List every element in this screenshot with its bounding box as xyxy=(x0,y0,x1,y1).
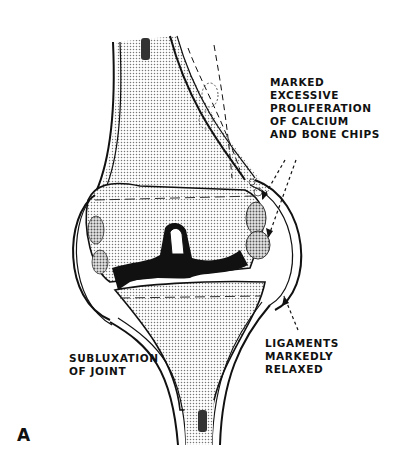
label-line: MARKEDLY xyxy=(265,350,339,363)
knee-joint-illustration xyxy=(0,0,393,473)
label-line: OF CALCIUM xyxy=(270,115,380,128)
panel-letter: A xyxy=(17,425,30,445)
label-line: PROLIFERATION xyxy=(270,102,380,115)
label-line: RELAXED xyxy=(265,363,339,376)
label-line: EXCESSIVE xyxy=(270,89,380,102)
label-line: AND BONE CHIPS xyxy=(270,128,380,141)
label-line: SUBLUXATION xyxy=(69,352,159,365)
label-line: OF JOINT xyxy=(69,365,159,378)
label-line: LIGAMENTS xyxy=(265,337,339,350)
label-calcium-proliferation: MARKED EXCESSIVE PROLIFERATION OF CALCIU… xyxy=(270,76,380,141)
label-line: MARKED xyxy=(270,76,380,89)
label-subluxation: SUBLUXATION OF JOINT xyxy=(69,352,159,378)
label-ligaments-relaxed: LIGAMENTS MARKEDLY RELAXED xyxy=(265,337,339,376)
